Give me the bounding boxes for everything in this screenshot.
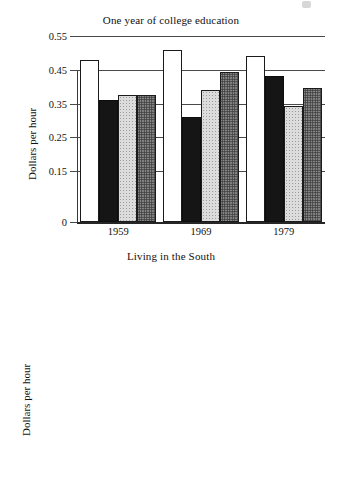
bar bbox=[182, 117, 201, 222]
bar bbox=[246, 56, 265, 222]
y-axis-tick bbox=[70, 222, 77, 223]
x-axis-tick-label: 1979 bbox=[273, 226, 294, 237]
y-axis-tick bbox=[70, 171, 77, 172]
bar bbox=[80, 60, 99, 222]
y-axis-tick-label: 0.35 bbox=[7, 98, 67, 109]
bar bbox=[137, 95, 156, 222]
x-axis-tick-label: 1959 bbox=[108, 226, 129, 237]
gridline bbox=[77, 70, 325, 71]
bar bbox=[284, 106, 303, 222]
bar bbox=[265, 76, 284, 222]
bar bbox=[163, 50, 182, 222]
y-axis-tick bbox=[70, 36, 77, 37]
bar bbox=[303, 88, 322, 222]
x-axis-tick-label: 1969 bbox=[191, 226, 212, 237]
bar bbox=[201, 90, 220, 222]
figure: One year of college education Dollars pe… bbox=[0, 0, 342, 494]
y-axis-tick bbox=[70, 104, 77, 105]
bar bbox=[99, 100, 118, 222]
gridline bbox=[77, 222, 325, 224]
y-axis-tick-label: 0.55 bbox=[7, 31, 67, 42]
y-axis-tick bbox=[70, 70, 77, 71]
chart-title-bottom: Living in the South bbox=[0, 250, 342, 262]
gridline bbox=[77, 36, 325, 37]
bar bbox=[220, 72, 239, 222]
bar-group-container-top bbox=[77, 36, 325, 222]
y-axis-tick-label: 0.25 bbox=[7, 132, 67, 143]
y-axis-line bbox=[77, 70, 78, 222]
chart-panel-south: Living in the South Dollars per hour 0−$… bbox=[0, 246, 342, 494]
bar bbox=[118, 95, 137, 222]
y-axis-tick-label: 0.45 bbox=[7, 64, 67, 75]
plot-area-top: 00.150.250.350.450.55195919691979 bbox=[77, 36, 325, 222]
y-axis-tick-label: 0 bbox=[7, 217, 67, 228]
chart-title-top: One year of college education bbox=[0, 14, 342, 26]
y-axis-label-bottom: Dollars per hour bbox=[20, 364, 32, 436]
chart-panel-college: One year of college education Dollars pe… bbox=[0, 0, 342, 248]
y-axis-tick bbox=[70, 137, 77, 138]
y-axis-tick-label: 0.15 bbox=[7, 166, 67, 177]
